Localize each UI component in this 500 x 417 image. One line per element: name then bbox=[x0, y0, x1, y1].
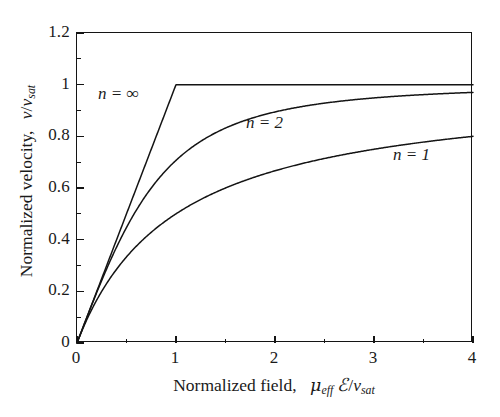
x-axis-tick-labels: 0 1 2 3 4 bbox=[76, 348, 472, 372]
x-tick-label: 2 bbox=[270, 348, 279, 368]
y-tick-label: 1 bbox=[61, 74, 70, 94]
y-tick-label: 0.2 bbox=[48, 280, 70, 300]
x-axis-mu-symbol: μ bbox=[310, 375, 321, 395]
curve-label-n-infinity-text: n = ∞ bbox=[98, 84, 139, 103]
curve-label-n-2-text: n = 2 bbox=[246, 113, 283, 132]
x-tick-label: 3 bbox=[369, 348, 378, 368]
x-tick-label: 4 bbox=[468, 348, 477, 368]
curve-label-n-infinity: n = ∞ bbox=[98, 84, 139, 104]
figure-container: 0 0.2 0.4 0.6 0.8 1 1.2 0 1 2 3 4 n = ∞ … bbox=[0, 0, 500, 417]
plot-frame bbox=[76, 32, 472, 342]
y-axis-title: Normalized velocity, v/vsat bbox=[16, 85, 39, 277]
x-tick-label: 0 bbox=[72, 348, 81, 368]
x-axis-v-subscript: sat bbox=[361, 383, 375, 397]
curve-1 bbox=[77, 136, 473, 343]
x-axis-field-symbol-icon: ℰ bbox=[337, 374, 348, 395]
plot-area bbox=[77, 33, 473, 343]
y-axis-title-wrapper: Normalized velocity, v/vsat bbox=[15, 16, 41, 346]
y-axis-v2-subscript: sat bbox=[25, 85, 39, 99]
curve-label-n-1: n = 1 bbox=[393, 145, 430, 165]
y-tick-label: 0.6 bbox=[48, 177, 70, 197]
x-axis-title-prefix: Normalized field, bbox=[173, 375, 296, 395]
y-axis-title-prefix: Normalized velocity, bbox=[16, 131, 36, 278]
x-axis-title: Normalized field, μeffℰ/vsat bbox=[76, 374, 472, 398]
y-axis-slash: / bbox=[16, 107, 36, 112]
x-axis-mu-subscript: eff bbox=[321, 383, 333, 397]
y-axis-v-symbol: v bbox=[16, 111, 36, 119]
y-tick-label: 1.2 bbox=[48, 22, 70, 42]
y-tick-label: 0 bbox=[61, 332, 70, 352]
y-tick-label: 0.8 bbox=[48, 125, 70, 145]
curve-label-n-2: n = 2 bbox=[246, 113, 283, 133]
x-tick-label: 1 bbox=[171, 348, 180, 368]
y-tick-label: 0.4 bbox=[48, 229, 70, 249]
curve-label-n-1-text: n = 1 bbox=[393, 145, 430, 164]
x-axis-v-symbol: v bbox=[353, 375, 361, 395]
y-axis-v2-symbol: v bbox=[16, 99, 36, 107]
